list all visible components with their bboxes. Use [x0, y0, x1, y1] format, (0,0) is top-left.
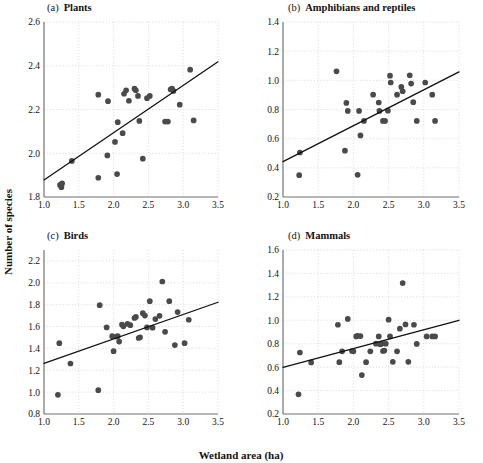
data-point — [182, 340, 188, 346]
data-point — [133, 314, 139, 320]
data-point — [370, 92, 376, 98]
data-point — [414, 118, 420, 124]
data-point — [358, 133, 364, 139]
data-point — [388, 80, 394, 86]
y-tick-label: 2.0 — [28, 149, 40, 159]
data-point — [140, 156, 146, 162]
y-axis-title: Number of species — [2, 188, 14, 275]
data-point — [114, 171, 120, 177]
scatter-panel-grid: (a)Plants 1.01.52.02.53.03.51.82.02.22.4… — [0, 0, 483, 463]
data-point — [376, 100, 382, 106]
data-point — [414, 341, 420, 347]
x-tick-label: 3.5 — [453, 417, 465, 427]
data-point — [177, 102, 183, 108]
data-point — [394, 92, 400, 98]
y-tick-label: 2.6 — [28, 17, 40, 27]
data-point — [105, 98, 111, 104]
x-tick-label: 2.0 — [108, 417, 120, 427]
x-tick-label: 3.5 — [212, 200, 224, 210]
y-tick-label: 0.2 — [267, 409, 279, 419]
panel-b-title: (b)Amphibians and reptiles — [288, 2, 415, 14]
data-point — [424, 334, 430, 340]
data-point — [126, 98, 132, 104]
data-point — [135, 93, 141, 99]
y-tick-label: 0.2 — [267, 192, 279, 202]
panel-b-regression-line — [283, 72, 459, 162]
data-point — [356, 108, 362, 114]
x-tick-label: 2.5 — [142, 200, 154, 210]
data-point — [345, 108, 351, 114]
data-point — [390, 359, 396, 365]
x-tick-label: 2.0 — [347, 200, 359, 210]
data-point — [115, 119, 121, 125]
panel-b-datapoints — [296, 68, 438, 178]
panel-a-title: (a)Plants — [47, 2, 92, 14]
y-tick-label: 0.4 — [267, 386, 279, 396]
data-point — [142, 313, 148, 319]
data-point — [137, 118, 143, 124]
data-point — [297, 350, 303, 356]
data-point — [405, 359, 411, 365]
x-tick-label: 3.0 — [177, 417, 189, 427]
x-tick-label: 1.5 — [312, 200, 324, 210]
y-tick-label: 1.4 — [267, 17, 279, 27]
data-point — [123, 87, 129, 93]
data-point — [116, 339, 122, 345]
data-point — [147, 298, 153, 304]
data-point — [56, 340, 62, 346]
panel-d-axes — [283, 250, 459, 414]
y-tick-label: 0.6 — [267, 134, 279, 144]
data-point — [111, 348, 117, 354]
data-point — [172, 342, 178, 348]
data-point — [342, 148, 348, 154]
data-point — [97, 302, 103, 308]
x-tick-label: 1.5 — [73, 200, 85, 210]
y-tick-label: 2.2 — [28, 105, 40, 115]
y-tick-label: 0.8 — [28, 409, 40, 419]
y-tick-label: 0.8 — [267, 339, 279, 349]
data-point — [165, 119, 171, 125]
data-point — [410, 99, 416, 105]
data-point — [394, 348, 400, 354]
x-tick-label: 2.5 — [383, 200, 395, 210]
y-tick-label: 0.4 — [267, 163, 279, 173]
x-tick-label: 1.5 — [73, 417, 85, 427]
data-point — [137, 334, 143, 340]
data-point — [104, 325, 110, 331]
panel-c-title: (c)Birds — [47, 230, 88, 242]
y-tick-label: 1.6 — [28, 322, 40, 332]
panel-d-gridlines — [283, 250, 459, 414]
data-point — [400, 280, 406, 286]
data-point — [55, 392, 61, 398]
data-point — [403, 322, 409, 328]
data-point — [386, 317, 392, 323]
panel-c-regression-line — [44, 302, 218, 363]
x-tick-label: 2.5 — [383, 417, 395, 427]
data-point — [147, 93, 153, 99]
data-point — [95, 387, 101, 393]
panel-d-title: (d)Mammals — [288, 230, 350, 242]
panel-c-gridlines — [44, 250, 218, 414]
y-tick-label: 1.0 — [267, 316, 279, 326]
data-point — [68, 361, 74, 367]
panel-d-datapoints — [296, 280, 438, 397]
data-point — [411, 322, 417, 328]
x-tick-label: 3.5 — [212, 417, 224, 427]
data-point — [382, 118, 388, 124]
data-point — [429, 92, 435, 98]
y-tick-label: 1.0 — [267, 76, 279, 86]
y-tick-label: 0.6 — [267, 363, 279, 373]
x-axis-title: Wetland area (ha) — [199, 449, 284, 462]
data-point — [95, 92, 101, 98]
data-point — [359, 372, 365, 378]
y-tick-label: 1.0 — [28, 388, 40, 398]
x-tick-label: 2.0 — [108, 200, 120, 210]
data-point — [400, 88, 406, 94]
data-point — [59, 181, 65, 187]
data-point — [358, 333, 364, 339]
x-tick-label: 3.5 — [453, 200, 465, 210]
data-point — [127, 322, 133, 328]
panel-b-tick-labels: 1.01.52.02.53.03.50.20.40.60.81.01.21.4 — [267, 17, 465, 210]
data-point — [120, 130, 126, 136]
data-point — [159, 279, 165, 285]
